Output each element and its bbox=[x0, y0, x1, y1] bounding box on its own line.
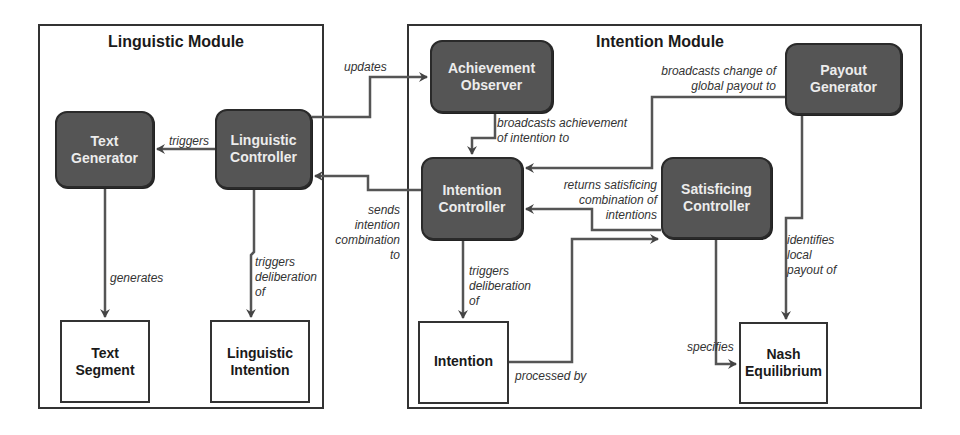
edge-label-generates: generates bbox=[110, 271, 163, 286]
edge-label-identifies: identifies local payout of bbox=[787, 233, 836, 278]
payout-generator-label: Payout Generator bbox=[810, 62, 877, 96]
edge-label-broadcasts-change: broadcasts change of global payout to bbox=[640, 64, 776, 94]
intention-label: Intention bbox=[434, 353, 493, 370]
achievement-observer-label: Achievement Observer bbox=[448, 60, 535, 94]
nash-equilibrium-label: Nash Equilibrium bbox=[745, 346, 822, 380]
intention-controller-node[interactable]: Intention Controller bbox=[421, 157, 523, 240]
edge-label-updates: updates bbox=[344, 60, 387, 75]
edge-label-returns: returns satisficing combination of inten… bbox=[537, 178, 657, 223]
intention-controller-label: Intention Controller bbox=[439, 182, 506, 216]
text-generator-node[interactable]: Text Generator bbox=[55, 111, 154, 188]
satisficing-controller-node[interactable]: Satisficing Controller bbox=[661, 157, 772, 239]
edge-sends bbox=[315, 176, 421, 190]
linguistic-module-title: Linguistic Module bbox=[108, 33, 244, 51]
edge-label-triggers-deliberation-ling: triggers deliberation of bbox=[255, 255, 317, 300]
payout-generator-node[interactable]: Payout Generator bbox=[785, 43, 902, 115]
edge-label-triggers: triggers bbox=[169, 134, 209, 149]
text-generator-label: Text Generator bbox=[71, 133, 138, 167]
edge-label-sends: sends intention combination to bbox=[324, 203, 400, 263]
linguistic-intention-node[interactable]: Linguistic Intention bbox=[210, 320, 310, 403]
linguistic-controller-label: Linguistic Controller bbox=[230, 132, 297, 166]
nash-equilibrium-node[interactable]: Nash Equilibrium bbox=[739, 322, 828, 404]
edge-label-broadcasts-achievement: broadcasts achievement of intention to bbox=[497, 116, 627, 146]
text-segment-label: Text Segment bbox=[75, 345, 134, 379]
edge-label-triggers-deliberation-int: triggers deliberation of bbox=[469, 264, 531, 309]
edge-label-processed-by: processed by bbox=[515, 369, 586, 384]
intention-node[interactable]: Intention bbox=[418, 321, 509, 404]
intention-module-title: Intention Module bbox=[596, 33, 724, 51]
text-segment-node[interactable]: Text Segment bbox=[60, 320, 150, 403]
linguistic-intention-label: Linguistic Intention bbox=[227, 345, 293, 379]
satisficing-controller-label: Satisficing Controller bbox=[681, 181, 752, 215]
achievement-observer-node[interactable]: Achievement Observer bbox=[430, 40, 553, 113]
edge-label-specifies: specifies bbox=[687, 340, 734, 355]
linguistic-controller-node[interactable]: Linguistic Controller bbox=[215, 109, 312, 189]
